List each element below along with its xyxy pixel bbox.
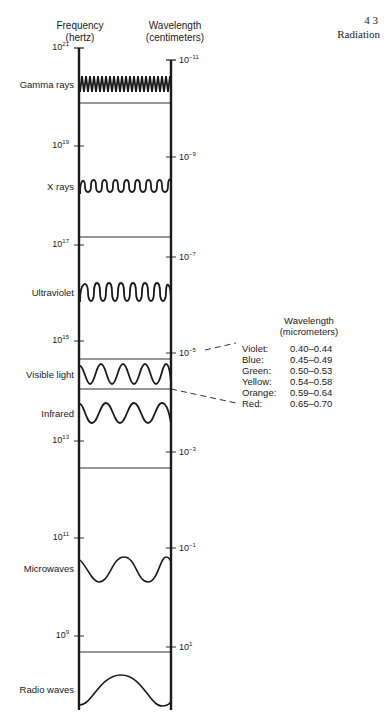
wavelength-tick-neg11: 10−11 xyxy=(179,54,199,65)
band-label-gamma-rays: Gamma rays xyxy=(0,79,74,90)
xray-wave-icon xyxy=(80,179,171,194)
wavelength-tick-1: 101 xyxy=(179,641,192,652)
freq-tick-17: 1017 xyxy=(29,238,69,249)
wavelength-tick-neg7: 10−7 xyxy=(179,251,196,262)
freq-tick-11: 1011 xyxy=(29,531,69,542)
freq-tick-21: 1021 xyxy=(29,41,69,52)
freq-tick-9: 109 xyxy=(29,629,69,640)
visible-legend-title: Wavelength (micrometers) xyxy=(264,315,354,337)
band-label-infrared: Infrared xyxy=(0,408,74,419)
legend-row-yellow: Yellow:0.54–0.58 xyxy=(242,376,332,387)
violet-leader-line xyxy=(205,343,236,350)
microwave-wave-icon xyxy=(80,557,171,582)
infrared-wave-icon xyxy=(80,403,171,423)
wavelength-tick-neg9: 10−9 xyxy=(179,151,196,162)
legend-row-violet: Violet:0.40–0.44 xyxy=(242,343,332,354)
red-leader-line xyxy=(171,389,236,403)
freq-tick-19: 1019 xyxy=(29,139,69,150)
legend-row-green: Green:0.50–0.53 xyxy=(242,365,332,376)
ultraviolet-wave-icon xyxy=(80,283,171,302)
wavelength-tick-neg3: 10−3 xyxy=(179,446,196,457)
wavelength-tick-neg5: 10−5 xyxy=(179,347,196,358)
freq-tick-13: 1013 xyxy=(29,434,69,445)
band-label-microwaves: Microwaves xyxy=(0,563,74,574)
freq-tick-15: 1015 xyxy=(29,334,69,345)
band-label-visible-light: Visible light xyxy=(0,369,74,380)
band-label-x-rays: X rays xyxy=(0,181,74,192)
legend-row-blue: Blue:0.45–0.49 xyxy=(242,354,332,365)
band-label-ultraviolet: Ultraviolet xyxy=(0,287,74,298)
wavelength-tick-neg1: 10−1 xyxy=(179,542,196,553)
visible-legend-table: Violet:0.40–0.44 Blue:0.45–0.49 Green:0.… xyxy=(242,343,332,409)
band-label-radio-waves: Radio waves xyxy=(0,684,74,695)
radio-wave-icon xyxy=(80,675,171,706)
legend-row-orange: Orange:0.59–0.64 xyxy=(242,387,332,398)
legend-row-red: Red:0.65–0.70 xyxy=(242,398,332,409)
gamma-wave-icon xyxy=(80,76,170,92)
visible-light-wave-icon xyxy=(80,364,171,385)
